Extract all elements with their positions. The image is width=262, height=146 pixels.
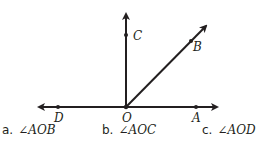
question-letter: a. — [2, 123, 13, 137]
question-angle: ∠AOB — [18, 123, 55, 137]
question-angle: ∠AOC — [118, 123, 156, 137]
label-B: B — [193, 41, 202, 53]
question-letter: c. — [202, 123, 212, 137]
question-b: b.∠AOC — [102, 123, 156, 137]
point-D — [56, 105, 60, 109]
label-A: A — [192, 112, 201, 124]
point-O — [124, 105, 128, 109]
question-a: a.∠AOB — [2, 123, 56, 137]
point-C — [124, 33, 128, 37]
label-C: C — [133, 30, 142, 42]
question-c: c.∠AOD — [202, 123, 256, 137]
question-letter: b. — [102, 123, 113, 137]
point-A — [194, 105, 198, 109]
question-angle: ∠AOD — [217, 123, 255, 137]
